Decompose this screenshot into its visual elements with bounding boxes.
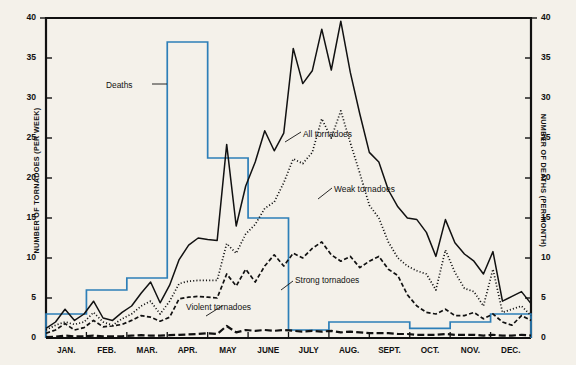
x-axis-month-label: NOV.	[450, 346, 490, 355]
y-tick-label-left: 0	[12, 332, 36, 342]
y-tick-label-right: 0	[541, 332, 565, 342]
y-tick-label-right: 20	[541, 172, 565, 182]
x-axis-month-label: OCT.	[410, 346, 450, 355]
series-label-deaths: Deaths	[106, 80, 133, 90]
annotation-leader-line	[318, 188, 332, 199]
series-label-all-tornadoes: All tornadoes	[303, 129, 352, 139]
x-axis-month-label: MAY	[208, 346, 248, 355]
x-axis-month-label: DEC.	[491, 346, 531, 355]
y-tick-label-left: 25	[12, 132, 36, 142]
y-tick-label-right: 25	[541, 132, 565, 142]
x-axis-month-label: APR.	[167, 346, 207, 355]
x-axis-month-label: FEB.	[86, 346, 126, 355]
y-tick-label-left: 30	[12, 92, 36, 102]
y-tick-label-left: 20	[12, 172, 36, 182]
annotation-leader-line	[285, 132, 301, 142]
y-tick-label-left: 40	[12, 12, 36, 22]
y-tick-label-right: 30	[541, 92, 565, 102]
series-label-weak-tornadoes: Weak tornadoes	[334, 184, 395, 194]
x-axis-month-label: JAN.	[46, 346, 86, 355]
y-tick-label-left: 35	[12, 52, 36, 62]
y-tick-label-right: 5	[541, 292, 565, 302]
y-tick-label-left: 10	[12, 252, 36, 262]
tornado-deaths-chart: NUMBER OF TORNADOES (PER WEEK) NUMBER OF…	[0, 0, 576, 365]
series-label-strong-tornadoes: Strong tornadoes	[295, 275, 359, 285]
y-tick-label-left: 15	[12, 212, 36, 222]
series-label-violent-tornadoes: Violent tornadoes	[186, 302, 251, 312]
x-axis-month-label: AUG.	[329, 346, 369, 355]
chart-canvas	[0, 0, 576, 365]
x-axis-month-label: MAR.	[127, 346, 167, 355]
x-axis-month-label: JULY	[289, 346, 329, 355]
x-axis-month-label: SEPT.	[369, 346, 409, 355]
y-tick-label-right: 40	[541, 12, 565, 22]
x-axis-month-label: JUNE	[248, 346, 288, 355]
annotation-leader-line	[281, 281, 293, 290]
y-tick-label-right: 15	[541, 212, 565, 222]
y-tick-label-left: 5	[12, 292, 36, 302]
y-tick-label-right: 35	[541, 52, 565, 62]
y-tick-label-right: 10	[541, 252, 565, 262]
